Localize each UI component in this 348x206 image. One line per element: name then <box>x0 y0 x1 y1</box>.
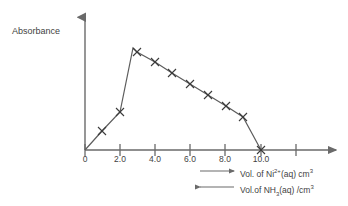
data-point-marker <box>204 91 212 99</box>
data-point-marker <box>239 113 247 121</box>
x-tick-label-10: 10.0 <box>253 154 270 164</box>
absorbance-data-line <box>85 48 261 150</box>
x-tick-label-2: 2.0 <box>114 154 126 164</box>
legend-label-nickel-mid: (aq) cm <box>281 169 310 179</box>
x-tick-label-8: 8.0 <box>219 154 231 164</box>
data-point-marker <box>151 58 159 66</box>
data-point-marker <box>98 127 106 135</box>
absorbance-titration-chart: Absorbance 0 2.0 4.0 6.0 8.0 10.0 Vol. o… <box>0 0 348 206</box>
legend-label-nickel: Vol. of Ni2+(aq) cm3 <box>240 166 313 179</box>
data-point-marker <box>168 69 176 77</box>
x-tick-label-6: 6.0 <box>184 154 196 164</box>
data-point-marker <box>186 80 194 88</box>
legend-label-ammonia-mid: (aq) /cm <box>279 185 310 195</box>
data-point-marker <box>133 48 141 56</box>
x-tick-label-4: 4.0 <box>149 154 161 164</box>
legend-label-ammonia-cubed: 3 <box>310 184 313 190</box>
legend-label-nickel-cubed: 3 <box>310 168 313 174</box>
legend-label-ammonia: Vol.of NH3(aq) /cm3 <box>240 182 314 199</box>
legend-label-nickel-pre: Vol. of Ni <box>240 169 274 179</box>
legend-label-nickel-charge: 2+ <box>274 168 281 174</box>
y-axis-title: Absorbance <box>12 26 60 37</box>
x-tick-label-0: 0 <box>83 154 88 164</box>
data-point-markers <box>98 48 265 154</box>
data-point-marker <box>222 102 230 110</box>
legend-label-ammonia-pre: Vol.of NH <box>240 185 276 195</box>
